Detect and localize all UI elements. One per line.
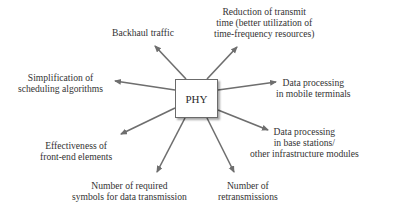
node-symbols-line-1: Number of required [72, 180, 187, 191]
node-transmit-time-line-2: time (better utilization of [214, 17, 314, 28]
node-symbols: Number of required symbols for data tran… [72, 180, 187, 202]
phy-label: PHY [185, 93, 207, 105]
node-transmit-time-line-3: time-frequency resources) [214, 28, 314, 39]
arrow-symbols [157, 118, 185, 172]
node-retransmissions-line-2: retransmissions [218, 191, 278, 202]
node-transmit-time-line-1: Reduction of transmit [214, 6, 314, 17]
node-base-stations-line-2: in base stations/ [250, 137, 359, 148]
node-backhaul: Backhaul traffic [112, 27, 174, 38]
node-mobile-terminals-line-1: Data processing [276, 77, 351, 88]
arrow-scheduling [115, 81, 175, 90]
node-scheduling-line-2: scheduling algorithms [18, 83, 103, 94]
node-scheduling: Simplification of scheduling algorithms [18, 72, 103, 94]
arrow-backhaul [155, 46, 186, 79]
node-mobile-terminals-line-2: in mobile terminals [276, 88, 351, 99]
phy-center-box: PHY [175, 79, 218, 118]
node-base-stations: Data processing in base stations/ other … [250, 126, 359, 159]
node-front-end: Effectiveness of front-end elements [40, 140, 112, 162]
node-symbols-line-2: symbols for data transmission [72, 191, 187, 202]
arrow-retransmissions [207, 118, 234, 172]
node-mobile-terminals: Data processing in mobile terminals [276, 77, 351, 99]
arrow-transmit-time [207, 47, 237, 79]
node-front-end-line-1: Effectiveness of [40, 140, 112, 151]
phy-impact-diagram: PHY Backhaul traffic Reduction of transm… [0, 0, 394, 213]
arrow-front-end [121, 108, 175, 134]
arrow-mobile-terminals [218, 82, 276, 90]
node-front-end-line-2: front-end elements [40, 151, 112, 162]
node-retransmissions-line-1: Number of [218, 180, 278, 191]
node-retransmissions: Number of retransmissions [218, 180, 278, 202]
node-backhaul-line-1: Backhaul traffic [112, 27, 174, 38]
node-scheduling-line-1: Simplification of [18, 72, 103, 83]
node-base-stations-line-3: other infrastructure modules [250, 148, 359, 159]
node-base-stations-line-1: Data processing [250, 126, 359, 137]
node-transmit-time: Reduction of transmit time (better utili… [214, 6, 314, 39]
